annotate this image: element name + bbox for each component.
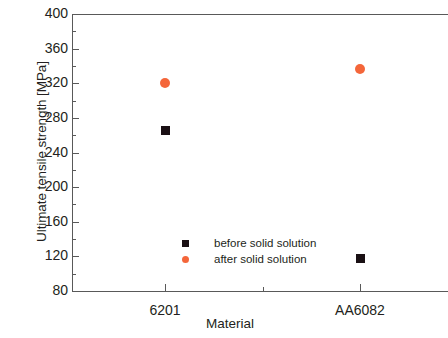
y-tick-minor bbox=[72, 66, 76, 67]
x-tick-major bbox=[165, 284, 166, 291]
y-tick-major bbox=[72, 118, 79, 119]
y-tick-minor bbox=[72, 204, 76, 205]
data-point bbox=[161, 126, 170, 135]
y-tick-major bbox=[72, 187, 79, 188]
y-tick-label: 200 bbox=[18, 179, 68, 193]
chart-legend: before solid solution after solid soluti… bbox=[182, 235, 316, 267]
x-axis-line bbox=[72, 291, 448, 292]
y-tick-label: 280 bbox=[18, 110, 68, 124]
data-point bbox=[355, 64, 365, 74]
y-tick-major bbox=[72, 14, 79, 15]
y-tick-label: 320 bbox=[18, 75, 68, 89]
y-tick-major bbox=[72, 222, 79, 223]
y-tick-major bbox=[72, 83, 79, 84]
plot-area: 80120160200240280320360400 6201AA6082 be… bbox=[72, 14, 448, 291]
y-tick-minor bbox=[72, 170, 76, 171]
y-tick-major bbox=[72, 49, 79, 50]
plot-border-top bbox=[72, 14, 448, 15]
y-tick-minor bbox=[72, 101, 76, 102]
y-tick-label: 360 bbox=[18, 41, 68, 55]
legend-item-label: before solid solution bbox=[214, 235, 316, 251]
y-tick-major bbox=[72, 256, 79, 257]
y-tick-label: 160 bbox=[18, 214, 68, 228]
x-tick-minor bbox=[263, 287, 264, 291]
legend-item-label: after solid solution bbox=[214, 251, 307, 267]
circle-marker-icon bbox=[182, 256, 214, 263]
y-tick-label: 120 bbox=[18, 248, 68, 262]
data-point bbox=[356, 254, 365, 263]
y-tick-minor bbox=[72, 31, 76, 32]
y-tick-label: 240 bbox=[18, 145, 68, 159]
legend-item: before solid solution bbox=[182, 235, 316, 251]
data-point bbox=[160, 78, 170, 88]
y-tick-minor bbox=[72, 135, 76, 136]
legend-item: after solid solution bbox=[182, 251, 316, 267]
chart-container: Ultimate tensile strength [MPa] 80120160… bbox=[0, 0, 448, 338]
y-tick-minor bbox=[72, 274, 76, 275]
x-axis-title: Material bbox=[60, 316, 400, 331]
y-tick-major bbox=[72, 153, 79, 154]
y-tick-label: 80 bbox=[18, 283, 68, 297]
y-tick-label: 400 bbox=[18, 6, 68, 20]
y-tick-major bbox=[72, 291, 79, 292]
y-tick-minor bbox=[72, 239, 76, 240]
x-tick-major bbox=[360, 284, 361, 291]
square-marker-icon bbox=[182, 240, 214, 247]
